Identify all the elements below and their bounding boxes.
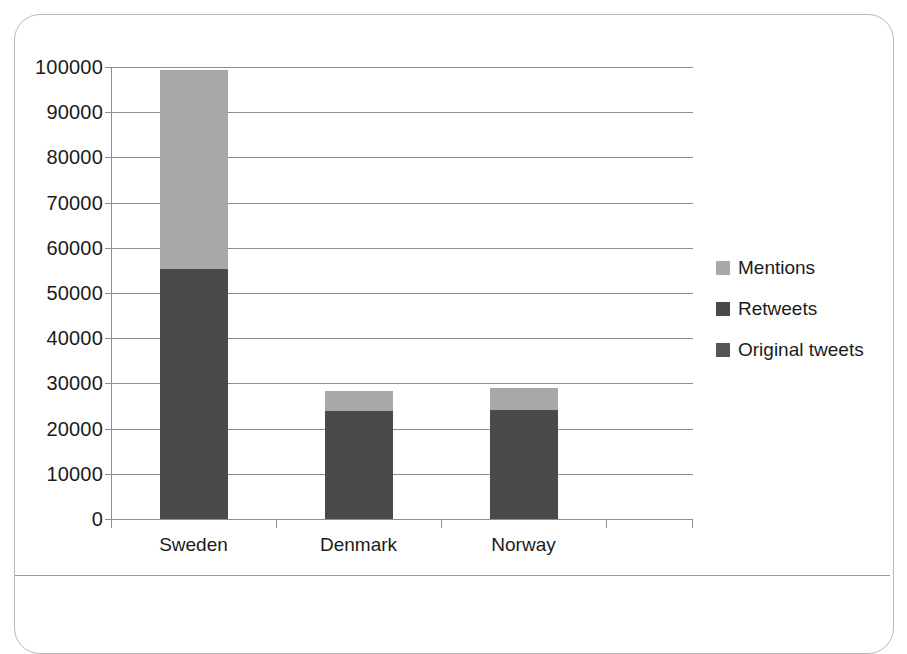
legend-label-mentions: Mentions — [738, 257, 815, 279]
bar-segment-denmark-mentions — [325, 391, 393, 411]
bar-segment-norway-original-tweets — [490, 410, 558, 519]
x-tick-mark-0 — [111, 519, 112, 528]
y-tick-label-40000: 40000 — [15, 328, 103, 348]
y-tick-label-10000: 10000 — [15, 464, 103, 484]
x-tick-mark-1 — [276, 519, 277, 528]
x-axis-label-denmark: Denmark — [276, 534, 441, 556]
plot-area — [111, 67, 693, 519]
bar-segment-norway-mentions — [490, 388, 558, 410]
y-tick-mark-80000 — [105, 157, 112, 158]
y-tick-label-70000: 70000 — [15, 193, 103, 213]
y-tick-mark-100000 — [105, 67, 112, 68]
y-tick-mark-50000 — [105, 293, 112, 294]
y-tick-label-30000: 30000 — [15, 373, 103, 393]
y-tick-mark-30000 — [105, 383, 112, 384]
x-tick-mark-4 — [692, 519, 693, 528]
legend-swatch-mentions — [716, 261, 730, 275]
y-tick-mark-70000 — [105, 203, 112, 204]
legend-item-original-tweets[interactable]: Original tweets — [716, 337, 864, 363]
x-axis-label-sweden: Sweden — [111, 534, 276, 556]
legend-label-original-tweets: Original tweets — [738, 339, 864, 361]
bar-sweden[interactable] — [160, 70, 228, 519]
legend-swatch-original-tweets — [716, 343, 730, 357]
legend-item-mentions[interactable]: Mentions — [716, 255, 815, 281]
x-tick-mark-3 — [606, 519, 607, 528]
y-tick-label-0: 0 — [15, 509, 103, 529]
y-tick-mark-90000 — [105, 112, 112, 113]
legend-swatch-retweets — [716, 302, 730, 316]
y-tick-label-80000: 80000 — [15, 147, 103, 167]
legend-item-retweets[interactable]: Retweets — [716, 296, 817, 322]
y-axis-tick-labels: 100000 90000 80000 70000 60000 50000 400… — [8, 0, 103, 597]
y-tick-mark-10000 — [105, 474, 112, 475]
y-tick-mark-40000 — [105, 338, 112, 339]
x-axis-label-norway: Norway — [441, 534, 606, 556]
y-tick-mark-60000 — [105, 248, 112, 249]
y-tick-label-90000: 90000 — [15, 102, 103, 122]
y-tick-label-100000: 100000 — [15, 57, 103, 77]
legend-label-retweets: Retweets — [738, 298, 817, 320]
bar-segment-denmark-original-tweets — [325, 411, 393, 519]
bar-segment-sweden-original-tweets — [160, 269, 228, 519]
y-tick-label-50000: 50000 — [15, 283, 103, 303]
x-tick-mark-2 — [441, 519, 442, 528]
y-tick-label-60000: 60000 — [15, 238, 103, 258]
y-tick-label-20000: 20000 — [15, 419, 103, 439]
bar-denmark[interactable] — [325, 391, 393, 519]
bar-segment-sweden-mentions — [160, 70, 228, 269]
y-tick-mark-20000 — [105, 429, 112, 430]
gridline-100000 — [111, 67, 693, 68]
bar-norway[interactable] — [490, 388, 558, 519]
